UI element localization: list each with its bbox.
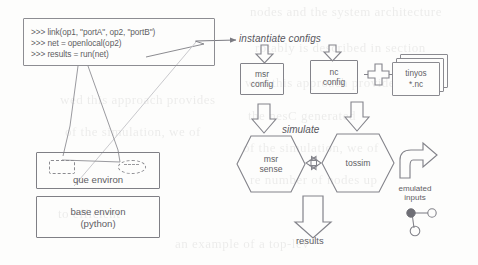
curved-arrow-emulated-inputs [400,143,437,178]
python-console-text: >>> link(op1, "portA", op2, "portB") >>>… [31,27,155,61]
msr-config-label-line1: msr [255,69,269,79]
base-environ-box[interactable]: base environ (python) [36,196,160,238]
console-line-2: >>> net = openlocal(op2) [31,38,155,49]
msr-sense-node[interactable]: msr sense [237,136,305,192]
console-line-3: >>> results = run(net) [31,49,155,60]
figure-canvas: nodes and the system architecture rotabl… [0,0,478,265]
que-environ-object-rect-icon [49,160,75,174]
nc-config-label-line2: config [323,77,345,87]
msr-sense-label-line1: msr [237,154,305,164]
block-arrow-nc-config-to-tossim [345,102,369,131]
tinyos-docs-label-line2: *.nc [393,80,439,90]
que-environ-label: que environ [37,174,159,186]
block-arrow-msr-config-to-sense [252,104,276,133]
console-line-1: >>> link(op1, "portA", op2, "portB") [31,27,155,38]
msr-config-label: msr config [251,69,273,89]
block-arrow-to-msr-config [256,45,273,63]
base-environ-label-line2: (python) [37,218,159,230]
block-arrow-to-results [295,196,331,238]
tossim-node[interactable]: tossim [322,134,394,192]
plus-combine-icon [368,64,389,85]
msr-config-box[interactable]: msr config [240,63,284,95]
nc-config-label-line1: nc [330,67,339,77]
msr-sense-label-line2: sense [237,164,305,174]
base-environ-label-line1: base environ [37,206,159,218]
nc-config-label: nc config [323,67,345,87]
msr-config-label-line2: config [251,79,273,89]
block-arrow-to-nc-config [324,45,341,61]
que-environ-box[interactable]: que environ [36,152,160,189]
tinyos-source-stack[interactable]: tinyos *.nc [388,54,450,100]
sensor-network-icon [407,209,436,236]
doc-sheet-front: tinyos *.nc [392,62,440,96]
que-environ-object-ellipse-icon [118,160,146,174]
tossim-label: tossim [322,158,394,168]
nc-config-box[interactable]: nc config [310,60,358,94]
tinyos-docs-label-line1: tinyos [393,69,439,79]
